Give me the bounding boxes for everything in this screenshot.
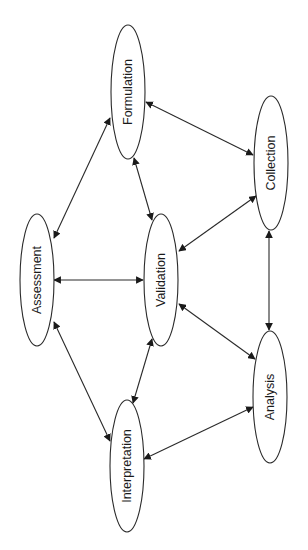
node-collection: Collection	[254, 96, 288, 230]
node-label: Analysis	[263, 374, 277, 421]
node-interpretation: Interpretation	[110, 400, 144, 532]
edge-collection-validation	[179, 196, 256, 251]
edge-analysis-interpretation	[144, 407, 253, 459]
edge-validation-analysis	[179, 304, 255, 359]
edge-formulation-assessment	[54, 118, 110, 238]
node-validation: Validation	[144, 214, 178, 346]
node-assessment: Assessment	[20, 214, 54, 346]
node-label: Collection	[264, 136, 278, 191]
node-label: Formulation	[121, 59, 135, 125]
node-analysis: Analysis	[253, 331, 287, 463]
node-formulation: Formulation	[111, 25, 145, 159]
edge-assessment-interpretation	[54, 322, 110, 441]
edge-validation-interpretation	[133, 339, 152, 403]
node-label: Validation	[154, 253, 168, 307]
edge-formulation-validation	[134, 158, 152, 220]
node-label: Assessment	[30, 245, 44, 314]
edge-formulation-collection	[146, 102, 253, 155]
process-diagram: FormulationCollectionAssessmentValidatio…	[0, 0, 308, 550]
node-label: Interpretation	[120, 429, 134, 503]
nodes-layer: FormulationCollectionAssessmentValidatio…	[20, 25, 288, 532]
